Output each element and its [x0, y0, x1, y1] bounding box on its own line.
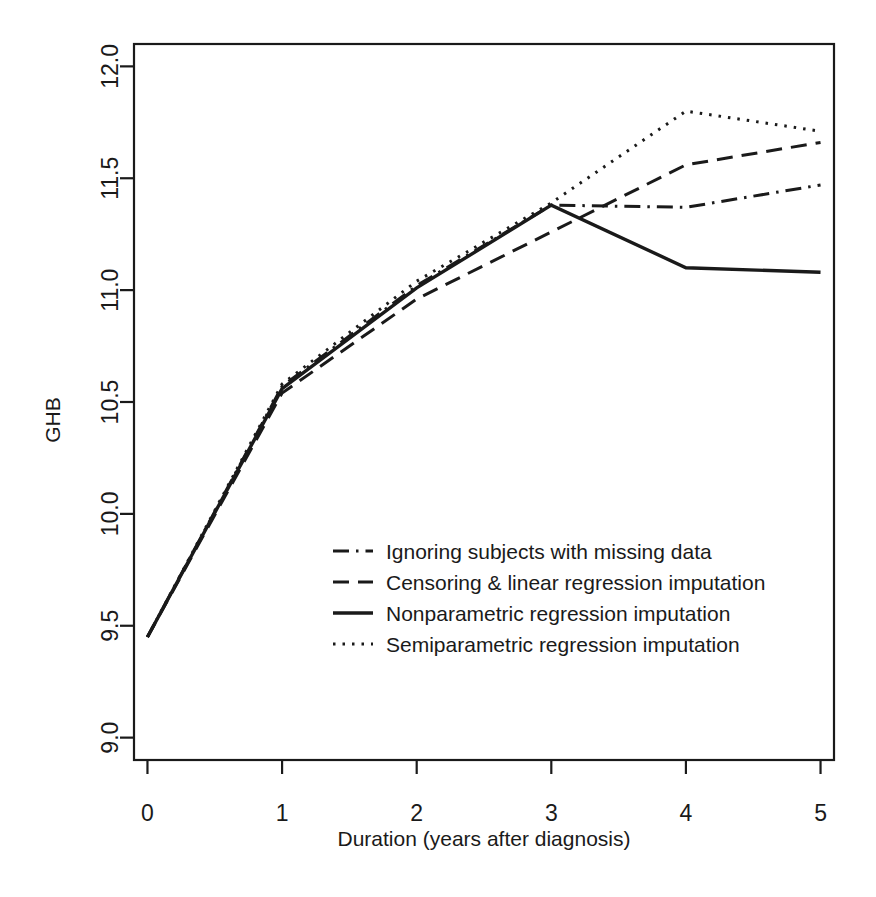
series-line: [147, 185, 820, 637]
y-tick-label: 10.0: [97, 491, 123, 536]
legend-item: Ignoring subjects with missing data: [333, 540, 712, 563]
y-axis-ticks: 9.09.510.010.511.011.512.0: [97, 44, 134, 754]
legend-label: Censoring & linear regression imputation: [386, 571, 765, 594]
x-tick-label: 1: [276, 800, 289, 826]
x-axis-ticks: 012345: [141, 760, 827, 826]
line-chart: 9.09.510.010.511.011.512.0 012345 GHB Du…: [0, 0, 876, 897]
x-tick-label: 5: [814, 800, 827, 826]
x-tick-label: 0: [141, 800, 154, 826]
series-line: [147, 142, 820, 636]
y-tick-label: 9.5: [97, 610, 123, 642]
legend-label: Ignoring subjects with missing data: [386, 540, 712, 563]
x-axis-title: Duration (years after diagnosis): [338, 827, 631, 850]
x-tick-label: 4: [680, 800, 693, 826]
legend-item: Semiparametric regression imputation: [333, 633, 740, 656]
y-tick-label: 10.5: [97, 380, 123, 425]
y-tick-label: 11.0: [97, 269, 123, 312]
chart-figure: 9.09.510.010.511.011.512.0 012345 GHB Du…: [0, 0, 876, 897]
legend-item: Nonparametric regression imputation: [333, 602, 730, 625]
legend-label: Nonparametric regression imputation: [386, 602, 730, 625]
y-tick-label: 9.0: [97, 722, 123, 754]
y-axis-title: GHB: [41, 397, 64, 443]
x-tick-label: 2: [410, 800, 423, 826]
chart-legend: Ignoring subjects with missing dataCenso…: [333, 540, 765, 656]
x-tick-label: 3: [545, 800, 558, 826]
legend-label: Semiparametric regression imputation: [386, 633, 740, 656]
y-tick-label: 12.0: [97, 44, 123, 89]
y-tick-label: 11.5: [97, 157, 123, 200]
legend-item: Censoring & linear regression imputation: [333, 571, 765, 594]
